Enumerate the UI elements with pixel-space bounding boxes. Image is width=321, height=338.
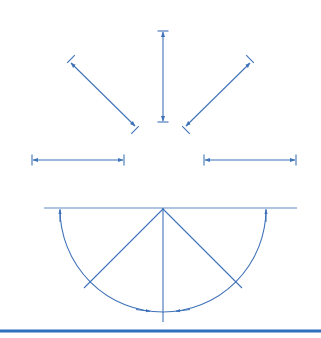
diagonal-arrow-left [67, 55, 139, 134]
horizontal-arrow-left [32, 155, 124, 166]
semicircle-construction-group [44, 208, 297, 322]
diagonal-arrow-right-end-tick [182, 126, 190, 134]
diagonal-arrow-left-start-tick [67, 55, 75, 63]
vertical-arrow [158, 31, 169, 122]
diagonal-arrow-right-start-tick [246, 55, 254, 63]
horizontal-arrow-right [204, 155, 296, 166]
diagonal-arrow-left-shaft [71, 63, 135, 126]
diagonal-arrow-right-shaft [186, 63, 250, 126]
diagonal-arrow-right [182, 55, 254, 134]
diagram-page [0, 0, 321, 338]
geometric-construction-diagram [0, 0, 321, 338]
radius-left [84, 209, 163, 288]
diagonal-arrow-left-end-tick [131, 126, 139, 134]
dimension-arrows-group [32, 31, 296, 166]
radius-right [163, 209, 242, 288]
construction-center-point [162, 208, 164, 210]
